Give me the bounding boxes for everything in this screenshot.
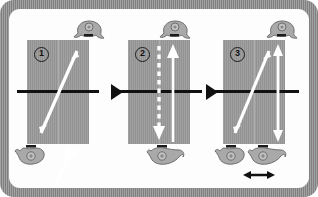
horizontal-double-arrow-3 <box>242 169 276 181</box>
step-badge-3: 3 <box>230 47 245 62</box>
panel-step-2: 2 <box>113 9 217 188</box>
player-bottom-center-2 <box>147 142 185 168</box>
player-bottom-left-3 <box>215 142 249 168</box>
step-separator-2 <box>205 83 219 101</box>
diagram-card: 1 <box>9 9 309 188</box>
player-bottom-right-3 <box>248 142 288 168</box>
step-separator-1 <box>110 83 124 101</box>
player-top-right-3 <box>265 17 299 41</box>
player-top-right-1 <box>72 17 106 41</box>
panel-step-3: 3 <box>207 9 309 188</box>
panel-step-1: 1 <box>9 9 117 188</box>
player-bottom-left-1 <box>15 142 49 168</box>
step-badge-1: 1 <box>34 47 49 62</box>
step-badge-2: 2 <box>135 47 150 62</box>
diagram-frame: 1 <box>0 0 318 197</box>
player-top-center-2 <box>158 17 192 41</box>
